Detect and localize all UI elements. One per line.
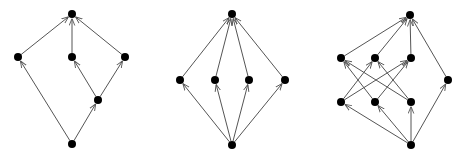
edge-arrow xyxy=(233,18,248,76)
edge-arrow xyxy=(413,84,446,142)
edge-arrow xyxy=(378,18,408,54)
graph-3 xyxy=(337,11,452,149)
node-dot xyxy=(176,76,184,84)
edge-arrow xyxy=(75,17,121,55)
node-dot xyxy=(94,96,102,104)
edge-arrow xyxy=(235,83,283,141)
node-dot xyxy=(406,11,414,19)
edge-arrow xyxy=(412,19,446,77)
edge-arrow xyxy=(216,18,231,76)
node-dot xyxy=(68,10,76,18)
graph-2 xyxy=(176,10,289,149)
node-dot xyxy=(68,53,76,61)
node-dot xyxy=(407,54,415,62)
node-dot xyxy=(281,76,289,84)
edge-arrow xyxy=(100,61,122,97)
node-dot xyxy=(337,54,345,62)
node-dot xyxy=(211,76,219,84)
edge-arrow xyxy=(182,18,229,77)
edge-arrow xyxy=(345,104,408,143)
edge-arrow xyxy=(378,105,409,141)
edge-arrow xyxy=(235,18,283,77)
node-dot xyxy=(407,141,415,149)
edge-arrow xyxy=(20,61,70,141)
edge-arrow xyxy=(21,17,68,55)
diagram-svg xyxy=(0,0,469,155)
edge-arrow xyxy=(410,19,411,54)
edge-arrow xyxy=(74,61,96,97)
node-dot xyxy=(444,76,452,84)
hasse-diagrams-canvas xyxy=(0,0,469,155)
node-dot xyxy=(371,54,379,62)
node-dot xyxy=(337,98,345,106)
edge-arrow xyxy=(74,104,96,141)
node-dot xyxy=(68,140,76,148)
node-dot xyxy=(228,10,236,18)
node-dot xyxy=(407,98,415,106)
edge-arrow xyxy=(183,84,230,142)
edge-arrow xyxy=(344,17,406,56)
node-dot xyxy=(14,53,22,61)
edge-arrow xyxy=(216,84,231,141)
node-dot xyxy=(371,98,379,106)
graph-1 xyxy=(14,10,129,148)
edge-arrow xyxy=(233,84,248,141)
node-dot xyxy=(245,76,253,84)
node-dot xyxy=(121,53,129,61)
node-dot xyxy=(228,141,236,149)
